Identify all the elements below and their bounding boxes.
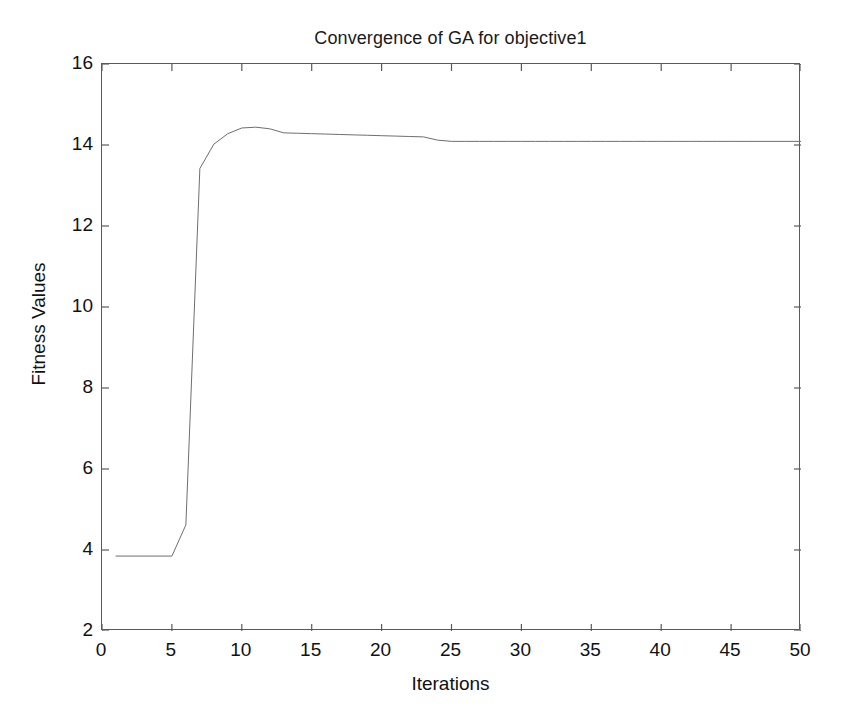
x-axis-tick-labels: 05101520253035404550	[101, 640, 800, 666]
x-tick-label: 45	[700, 640, 760, 659]
x-tick-label: 10	[211, 640, 271, 659]
series-lines	[116, 127, 801, 556]
x-tick-label: 30	[490, 640, 550, 659]
y-axis-label: Fitness Values	[28, 214, 50, 434]
y-tick-label: 6	[53, 458, 93, 477]
x-tick-label: 35	[560, 640, 620, 659]
y-tick-label: 14	[53, 134, 93, 153]
x-tick-label: 50	[770, 640, 830, 659]
x-tick-label: 5	[141, 640, 201, 659]
tick-marks	[102, 64, 801, 631]
plot-area	[101, 63, 800, 630]
y-axis-tick-labels: 246810121416	[49, 63, 93, 630]
x-tick-label: 40	[630, 640, 690, 659]
chart-title: Convergence of GA for objective1	[101, 28, 800, 49]
data-series-line-0	[116, 127, 801, 556]
x-tick-label: 20	[351, 640, 411, 659]
y-tick-label: 16	[53, 53, 93, 72]
x-tick-label: 0	[71, 640, 131, 659]
plot-svg	[102, 64, 801, 631]
y-tick-label: 2	[53, 620, 93, 639]
x-tick-label: 25	[421, 640, 481, 659]
y-tick-label: 8	[53, 377, 93, 396]
y-tick-label: 10	[53, 296, 93, 315]
figure-canvas: Convergence of GA for objective1 2468101…	[0, 0, 847, 714]
x-tick-label: 15	[281, 640, 341, 659]
x-axis-label: Iterations	[101, 673, 800, 695]
y-tick-label: 4	[53, 539, 93, 558]
y-tick-label: 12	[53, 215, 93, 234]
